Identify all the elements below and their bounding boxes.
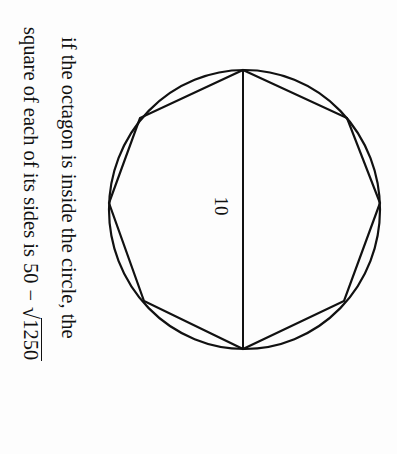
caption-line-1-text: if the octagon is inside the circle, the [58, 37, 80, 339]
caption-line-1: if the octagon is inside the circle, the [57, 37, 81, 339]
diameter-label: 10 [211, 194, 231, 218]
caption-line-2: square of each of its sides is50−√1250 [19, 27, 43, 361]
radicand: 1250 [20, 318, 42, 361]
octagon [109, 70, 380, 349]
circle [109, 70, 380, 349]
expression-fifty: 50 [20, 263, 42, 284]
square-root-expression: √1250 [19, 307, 43, 361]
caption-line-2-text: square of each of its sides is [20, 27, 42, 257]
expression-minus: − [20, 290, 42, 302]
page: 10 if the octagon is inside the circle, … [0, 0, 397, 454]
radical-sign-icon: √ [18, 307, 42, 319]
